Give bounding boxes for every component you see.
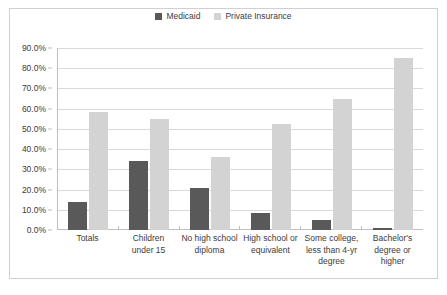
x-axis-category-label: Childrenunder 15 — [118, 233, 179, 268]
y-axis-tick-mark — [48, 169, 52, 170]
y-axis-tick-label: 90.0% — [22, 44, 46, 53]
x-axis-label-line: under 15 — [119, 245, 178, 257]
x-axis-category-label: No high schooldiploma — [179, 233, 240, 268]
x-axis-label-line: No high school — [180, 233, 239, 245]
bar-group — [301, 48, 362, 230]
y-axis-tick-label: 50.0% — [22, 125, 46, 134]
legend-label: Medicaid — [166, 12, 200, 21]
bar-private-insurance[interactable] — [150, 119, 169, 230]
x-axis-label-line: Children — [119, 233, 178, 245]
y-axis-tick-mark — [48, 149, 52, 150]
bar-medicaid[interactable] — [312, 220, 331, 230]
bar-private-insurance[interactable] — [333, 99, 352, 230]
x-axis-label-line: diploma — [180, 245, 239, 257]
chart-figure: MedicaidPrivate Insurance 90.0%80.0%70.0… — [0, 0, 447, 295]
bar-group — [119, 48, 180, 230]
x-axis-label-line: degree or — [363, 245, 422, 257]
y-axis-tick-mark — [48, 68, 52, 69]
bar-groups — [58, 48, 423, 230]
chart-legend: MedicaidPrivate Insurance — [0, 12, 447, 21]
y-axis-tick-mark — [48, 189, 52, 190]
bar-private-insurance[interactable] — [272, 124, 291, 230]
legend-entry-medicaid[interactable]: Medicaid — [155, 12, 200, 21]
y-axis-tick-label: 30.0% — [22, 165, 46, 174]
x-axis-category-label: Totals — [57, 233, 118, 268]
legend-label: Private Insurance — [225, 12, 291, 21]
y-axis-tick-label: 60.0% — [22, 104, 46, 113]
x-axis-label-line: equivalent — [241, 245, 300, 257]
bar-group — [240, 48, 301, 230]
plot-area — [57, 48, 423, 230]
x-axis-label-line: Some college, — [302, 233, 361, 245]
y-axis-tick-label: 70.0% — [22, 84, 46, 93]
bar-medicaid[interactable] — [190, 188, 209, 230]
legend-swatch-icon — [155, 13, 162, 20]
bar-medicaid[interactable] — [373, 228, 392, 230]
x-axis-label-line: degree — [302, 256, 361, 268]
x-axis-label-line: Totals — [58, 233, 117, 245]
bar-private-insurance[interactable] — [394, 58, 413, 230]
bar-group — [362, 48, 423, 230]
y-axis-tick-mark — [48, 230, 52, 231]
bar-private-insurance[interactable] — [211, 157, 230, 230]
legend-swatch-icon — [214, 13, 221, 20]
x-axis-category-label: High school orequivalent — [240, 233, 301, 268]
bar-group — [180, 48, 241, 230]
y-axis-tick-label: 0.0% — [27, 226, 46, 235]
x-axis-category-label: Bachelor'sdegree orhigher — [362, 233, 423, 268]
y-axis: 90.0%80.0%70.0%60.0%50.0%40.0%30.0%20.0%… — [0, 48, 52, 230]
bar-medicaid[interactable] — [251, 213, 270, 230]
y-axis-tick-mark — [48, 108, 52, 109]
y-axis-tick-mark — [48, 128, 52, 129]
legend-entry-private-insurance[interactable]: Private Insurance — [214, 12, 291, 21]
x-axis-label-line: less than 4-yr — [302, 245, 361, 257]
x-axis-label-line: higher — [363, 256, 422, 268]
y-axis-tick-mark — [48, 209, 52, 210]
bar-group — [58, 48, 119, 230]
y-axis-tick-label: 10.0% — [22, 206, 46, 215]
y-axis-tick-label: 80.0% — [22, 64, 46, 73]
y-axis-tick-mark — [48, 48, 52, 49]
x-axis-label-line: High school or — [241, 233, 300, 245]
x-axis-labels: TotalsChildrenunder 15No high schooldipl… — [57, 233, 423, 268]
y-axis-tick-label: 20.0% — [22, 185, 46, 194]
bar-medicaid[interactable] — [68, 202, 87, 230]
y-axis-tick-label: 40.0% — [22, 145, 46, 154]
bar-private-insurance[interactable] — [89, 112, 108, 230]
y-axis-tick-mark — [48, 88, 52, 89]
x-axis-label-line: Bachelor's — [363, 233, 422, 245]
bar-medicaid[interactable] — [129, 161, 148, 230]
x-axis-category-label: Some college,less than 4-yrdegree — [301, 233, 362, 268]
